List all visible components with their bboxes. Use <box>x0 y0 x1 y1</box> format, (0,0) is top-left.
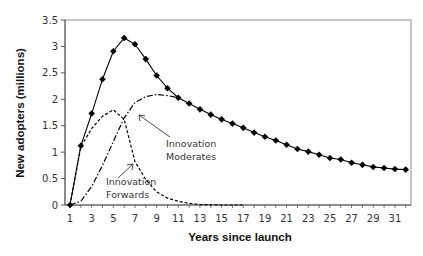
y-tick-label: 3 <box>52 41 58 52</box>
x-axis-ticks: 135791113151719212325272931 <box>67 205 406 224</box>
diamond-marker-icon <box>327 155 334 162</box>
x-tick-label: 25 <box>324 213 337 224</box>
x-tick-label: 7 <box>132 213 138 224</box>
diamond-marker-icon <box>197 106 204 113</box>
diamond-marker-icon <box>240 125 247 132</box>
x-tick-label: 9 <box>153 213 159 224</box>
diamond-marker-icon <box>370 164 377 171</box>
diamond-marker-icon <box>359 162 366 169</box>
y-axis-title: New adopters (millions) <box>14 48 26 178</box>
y-tick-label: 0.5 <box>42 173 58 184</box>
annotation-moderates-line2: Moderates <box>166 151 216 162</box>
y-tick-label: 1.5 <box>42 120 58 131</box>
y-tick-label: 0 <box>52 200 58 211</box>
diamond-marker-icon <box>88 110 95 117</box>
x-tick-label: 5 <box>110 213 116 224</box>
x-tick-label: 3 <box>88 213 94 224</box>
x-tick-label: 23 <box>302 213 315 224</box>
annotation-forwards-line2: Forwards <box>106 189 149 200</box>
diamond-marker-icon <box>99 76 106 83</box>
x-axis-title: Years since launch <box>188 231 292 243</box>
diamond-marker-icon <box>207 111 214 118</box>
annotation-forwards-line1: Innovation <box>106 176 156 187</box>
x-tick-label: 15 <box>215 213 228 224</box>
diamond-marker-icon <box>402 166 409 173</box>
x-tick-label: 17 <box>237 213 250 224</box>
x-tick-label: 27 <box>345 213 358 224</box>
x-tick-label: 13 <box>194 213 207 224</box>
diamond-marker-icon <box>316 151 323 158</box>
x-tick-label: 19 <box>259 213 272 224</box>
diamond-marker-icon <box>251 129 258 136</box>
y-tick-label: 2.5 <box>42 67 58 78</box>
chart-canvas: 00.511.522.533.5 13579111315171921232527… <box>0 0 423 256</box>
annotation-moderates-line1: Innovation <box>166 138 216 149</box>
diamond-marker-icon <box>381 165 388 172</box>
diamond-marker-icon <box>283 141 290 148</box>
diamond-marker-icon <box>186 100 193 107</box>
y-tick-label: 2 <box>52 94 58 105</box>
y-axis-ticks: 00.511.522.533.5 <box>42 15 65 211</box>
diamond-marker-icon <box>272 137 279 144</box>
x-tick-label: 11 <box>172 213 185 224</box>
diamond-marker-icon <box>218 116 225 123</box>
adoption-line-chart: 00.511.522.533.5 13579111315171921232527… <box>0 0 423 256</box>
arrow-moderates <box>139 115 170 137</box>
diamond-marker-icon <box>305 148 312 155</box>
x-tick-label: 31 <box>389 213 402 224</box>
diamond-marker-icon <box>337 156 344 163</box>
annotation-layer: Innovation Moderates Innovation Forwards <box>106 115 216 200</box>
series-line-innovation-forwards <box>70 110 243 205</box>
diamond-marker-icon <box>294 146 301 153</box>
x-tick-label: 1 <box>67 213 73 224</box>
diamond-marker-icon <box>348 159 355 166</box>
diamond-marker-icon <box>392 166 399 173</box>
y-tick-label: 3.5 <box>42 15 58 26</box>
x-tick-label: 21 <box>280 213 293 224</box>
diamond-marker-icon <box>229 120 236 127</box>
y-tick-label: 1 <box>52 147 58 158</box>
diamond-marker-icon <box>262 134 269 141</box>
x-tick-label: 29 <box>367 213 380 224</box>
